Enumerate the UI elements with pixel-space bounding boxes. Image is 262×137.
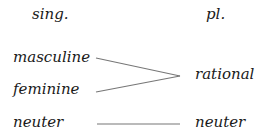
line-feminine-rational (96, 76, 180, 92)
line-masculine-rational (96, 58, 180, 76)
mapping-lines (0, 0, 262, 137)
